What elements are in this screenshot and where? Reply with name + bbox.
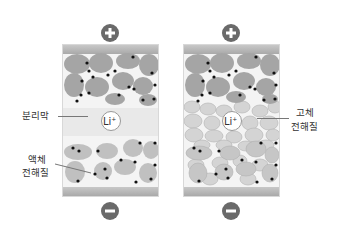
- anode-collector: [63, 187, 158, 196]
- solid-electrolyte-label-2: 전해질: [291, 121, 318, 133]
- separator-leader-line: [58, 116, 88, 117]
- liquid-electrolyte-label-1: 액체: [28, 154, 46, 166]
- solid-electrolyte-label-1: 고체: [296, 107, 314, 119]
- separator-label: 분리막: [22, 110, 49, 122]
- liquid-electrolyte-leader-line: [55, 160, 95, 176]
- positive-terminal-icon-left: [101, 24, 119, 42]
- negative-terminal-icon-left: [101, 202, 119, 220]
- lithium-ion-left: Li+: [103, 115, 116, 127]
- negative-terminal-icon-right: [222, 202, 240, 220]
- lithium-ion-right: Li+: [224, 115, 237, 127]
- positive-terminal-icon-right: [222, 24, 240, 42]
- anode-collector-right: [184, 187, 279, 196]
- solid-electrolyte-cell: Li+: [183, 44, 280, 197]
- liquid-electrolyte-label-2: 전해질: [22, 167, 49, 179]
- solid-electrolyte-leader-line: [257, 118, 289, 119]
